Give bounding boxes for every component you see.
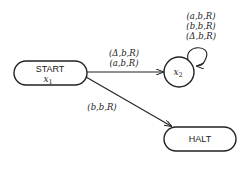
edge-label: (Δ,b,R) <box>109 48 139 58</box>
node-halt: HALT <box>164 127 236 151</box>
node-start-label: START <box>36 64 65 74</box>
node-start: START x1 <box>14 61 87 86</box>
edge-label: (b,b,R) <box>87 102 116 112</box>
node-halt-label: HALT <box>189 134 212 144</box>
edge-x2-loop: (a,b,R) (b,b,R) (Δ,b,R) <box>186 11 216 66</box>
state-diagram: START x1 x2 HALT (Δ,b,R) (a,b,R) (a,b,R)… <box>0 0 247 177</box>
edge-label: (Δ,b,R) <box>186 31 216 41</box>
edge-label: (a,b,R) <box>187 11 216 21</box>
node-x2: x2 <box>164 57 194 87</box>
edge-start-x2: (Δ,b,R) (a,b,R) <box>87 48 163 72</box>
edge-label: (b,b,R) <box>186 21 215 31</box>
edge-start-halt: (b,b,R) <box>86 77 171 126</box>
edge-label: (a,b,R) <box>110 58 139 68</box>
